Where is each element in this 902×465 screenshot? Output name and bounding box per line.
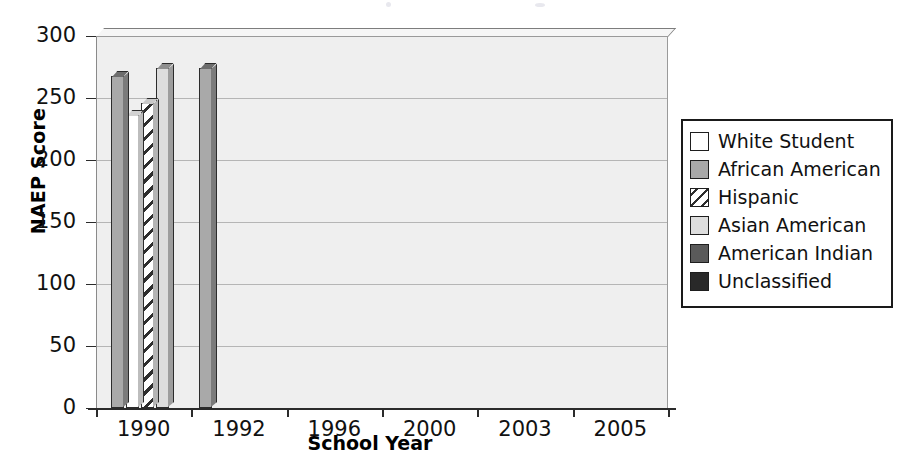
legend-swatch-icon bbox=[690, 132, 709, 151]
gridline bbox=[97, 222, 668, 223]
y-tick-label: 250 bbox=[16, 87, 76, 108]
bar bbox=[111, 76, 124, 408]
legend-item-label: Unclassified bbox=[718, 272, 832, 291]
legend-item: African American bbox=[690, 155, 883, 183]
legend-item: Asian American bbox=[690, 211, 883, 239]
plot-area bbox=[96, 36, 668, 408]
y-tick-label: 300 bbox=[16, 25, 76, 46]
y-tick-label: 100 bbox=[16, 273, 76, 294]
legend-item-label: Hispanic bbox=[718, 188, 799, 207]
legend-item: Unclassified bbox=[690, 267, 883, 295]
x-tick bbox=[573, 408, 575, 417]
x-tick bbox=[668, 408, 670, 417]
y-tick bbox=[86, 346, 96, 347]
scan-speck bbox=[386, 2, 391, 7]
legend-item-label: American Indian bbox=[718, 244, 873, 263]
y-tick bbox=[86, 160, 96, 161]
bar bbox=[199, 68, 212, 408]
legend-item-label: Asian American bbox=[718, 216, 866, 235]
x-tick bbox=[96, 408, 98, 417]
x-tick bbox=[477, 408, 479, 417]
naep-score-bar-chart: NAEP Score 050100150200250300 1990199219… bbox=[0, 0, 902, 465]
legend-item-label: White Student bbox=[718, 132, 854, 151]
gridline bbox=[97, 98, 668, 99]
legend-item-label: African American bbox=[718, 160, 881, 179]
y-tick bbox=[86, 98, 96, 99]
y-tick-label: 150 bbox=[16, 211, 76, 232]
scan-speck bbox=[535, 3, 545, 7]
y-tick-label: 0 bbox=[16, 397, 76, 418]
bar-side-face bbox=[168, 64, 174, 407]
x-axis-title: School Year bbox=[60, 432, 680, 454]
legend-item: Hispanic bbox=[690, 183, 883, 211]
legend-item: American Indian bbox=[690, 239, 883, 267]
y-tick-label: 50 bbox=[16, 335, 76, 356]
gridline bbox=[97, 160, 668, 161]
x-tick bbox=[191, 408, 193, 417]
legend-swatch-icon bbox=[690, 272, 709, 291]
y-tick bbox=[86, 284, 96, 285]
x-tick bbox=[287, 408, 289, 417]
legend-swatch-icon bbox=[690, 160, 709, 179]
legend-item: White Student bbox=[690, 127, 883, 155]
y-tick bbox=[86, 36, 96, 37]
legend-swatch-icon bbox=[690, 244, 709, 263]
y-tick-label: 200 bbox=[16, 149, 76, 170]
gridline bbox=[97, 284, 668, 285]
bar-side-face bbox=[123, 72, 129, 407]
legend-swatch-icon bbox=[690, 188, 709, 207]
y-tick bbox=[86, 222, 96, 223]
gridline bbox=[97, 346, 668, 347]
gridline bbox=[97, 36, 668, 37]
legend-swatch-icon bbox=[690, 216, 709, 235]
chart-legend: White StudentAfrican AmericanHispanicAsi… bbox=[681, 119, 893, 308]
bar-side-face bbox=[211, 64, 217, 407]
bar-side-face bbox=[138, 111, 144, 407]
x-tick bbox=[382, 408, 384, 417]
bar-side-face bbox=[153, 99, 159, 407]
y-axis bbox=[86, 36, 96, 408]
